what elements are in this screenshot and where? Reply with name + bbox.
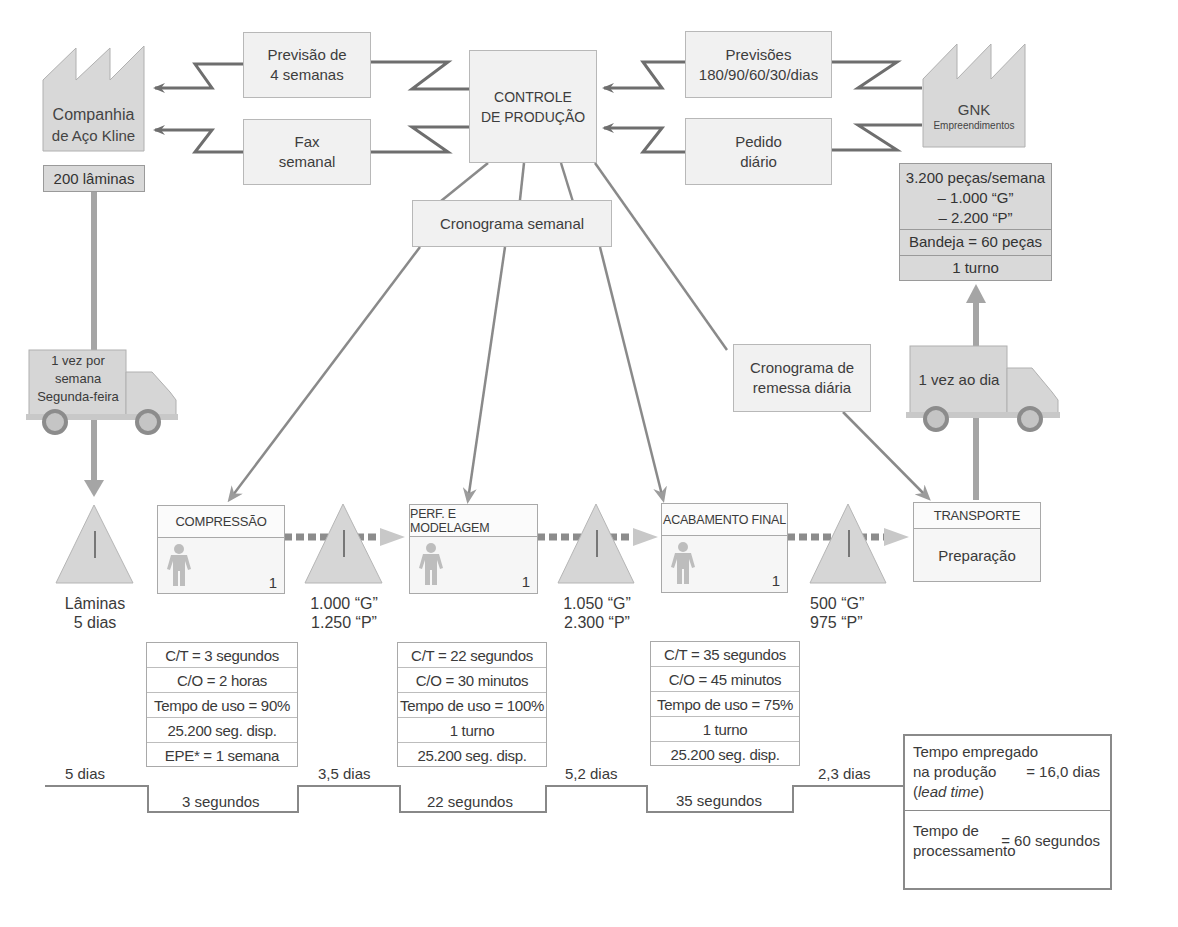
timeline-wait-4: 2,3 dias: [818, 764, 871, 783]
process-shipping-body: Preparação: [938, 547, 1016, 564]
process-drilling-shaping: PERF. E MODELAGEM 1: [409, 504, 538, 594]
data-box-drilling: C/T = 22 segundos C/O = 30 minutos Tempo…: [397, 642, 547, 767]
inventory-3-line1: 500 “G”: [810, 594, 886, 613]
electronic-info-flow-fax: [155, 130, 243, 152]
process-compression: COMPRESSÃO 1: [157, 505, 285, 594]
forecast-customer-line1: Previsões: [726, 45, 792, 65]
timeline-wait-1: 5 dias: [65, 764, 105, 783]
truck-outbound-label: 1 vez ao dia: [911, 370, 1007, 389]
operator-icon: [670, 541, 696, 585]
timeline-process-2: 22 segundos: [427, 792, 513, 811]
inventory-sheets-line2: 5 dias: [54, 613, 136, 632]
forecast-supplier-line2: 4 semanas: [270, 65, 343, 85]
inventory-2-line2: 2.300 “P”: [553, 613, 641, 632]
inventory-1-line2: 1.250 “P”: [300, 613, 388, 632]
daily-shipping-line2: remessa diária: [753, 378, 851, 398]
inbound-shipment-arrow: [84, 191, 104, 497]
data-box-compression: C/T = 3 segundos C/O = 2 horas Tempo de …: [146, 642, 298, 767]
data-row: C/O = 2 horas: [147, 668, 297, 693]
process-drilling-title: PERF. E MODELAGEM: [410, 505, 537, 537]
data-row: 25.200 seg. disp.: [651, 742, 799, 766]
forecast-supplier-line1: Previsão de: [267, 45, 346, 65]
data-box-finishing: C/T = 35 segundos C/O = 45 minutos Tempo…: [650, 641, 800, 766]
lead-time-italic: lead time: [918, 783, 979, 800]
customer-name-main: GNK: [923, 99, 1025, 120]
process-shipping: TRANSPORTE Preparação: [913, 502, 1041, 582]
customer-name: GNK Empreendimentos: [923, 99, 1025, 132]
fax-line2: semanal: [279, 152, 336, 172]
process-finishing-operators: 1: [772, 572, 780, 589]
supplier-name-line2: de Aço Kline: [43, 125, 144, 146]
supplier-name-line1: Companhia: [43, 104, 144, 125]
daily-shipping-line1: Cronograma de: [750, 358, 854, 378]
lead-time-summary: Tempo empregado na produção (lead time) …: [905, 736, 1110, 810]
forecast-customer-box: Previsões 180/90/60/30/dias: [685, 31, 832, 98]
daily-order-line2: diário: [740, 152, 777, 172]
process-shipping-title: TRANSPORTE: [914, 503, 1040, 529]
timeline-process-3: 35 segundos: [676, 791, 762, 810]
timeline-process-1: 3 segundos: [182, 792, 260, 811]
data-row: C/T = 35 segundos: [651, 642, 799, 667]
production-control-box: CONTROLE DE PRODUÇÃO: [469, 50, 597, 163]
lead-time-value: = 16,0 dias: [1026, 762, 1100, 782]
electronic-info-flow-forecast: [155, 64, 243, 88]
operator-icon: [166, 543, 192, 587]
data-row: 25.200 seg. disp.: [398, 743, 546, 767]
inventory-label-sheets: Lâminas 5 dias: [54, 594, 136, 632]
processing-time-summary: Tempo de processamento = 60 segundos: [905, 810, 1110, 867]
inventory-1-line1: 1.000 “G”: [300, 594, 388, 613]
fax-box: Fax semanal: [243, 119, 371, 185]
data-row: C/O = 45 minutos: [651, 667, 799, 692]
data-row: C/T = 22 segundos: [398, 643, 546, 668]
production-control-line1: CONTROLE: [494, 87, 572, 107]
customer-demand-g: – 1.000 “G”: [900, 188, 1051, 208]
truck-outbound-text: 1 vez ao dia: [919, 371, 1000, 388]
fax-line1: Fax: [294, 132, 319, 152]
truck-inbound-line1: 1 vez por: [30, 352, 126, 370]
data-row: C/T = 3 segundos: [147, 643, 297, 668]
timeline-wait-2: 3,5 dias: [318, 764, 371, 783]
data-row: 1 turno: [651, 717, 799, 742]
daily-order-line1: Pedido: [735, 132, 782, 152]
daily-shipping-schedule-box: Cronograma de remessa diária: [733, 344, 871, 412]
operator-icon: [418, 542, 444, 586]
process-finishing-title: ACABAMENTO FINAL: [662, 504, 787, 536]
forecast-supplier-box: Previsão de 4 semanas: [243, 32, 371, 98]
customer-demand-total: 3.200 peças/semana: [900, 168, 1051, 188]
truck-inbound-line3: Segunda-feira: [30, 388, 126, 406]
inventory-3-line2: 975 “P”: [810, 613, 886, 632]
inventory-label-2: 1.050 “G” 2.300 “P”: [553, 594, 641, 632]
process-compression-title: COMPRESSÃO: [158, 506, 284, 538]
daily-order-box: Pedido diário: [685, 118, 832, 185]
truck-inbound-line2: semana: [30, 370, 126, 388]
data-row: C/O = 30 minutos: [398, 668, 546, 693]
data-row: Tempo de uso = 75%: [651, 692, 799, 717]
weekly-schedule-text: Cronograma semanal: [440, 214, 584, 234]
production-control-line2: DE PRODUÇÃO: [481, 107, 585, 127]
inventory-label-3: 500 “G” 975 “P”: [810, 594, 886, 632]
lead-time-label-1: Tempo empregado: [913, 742, 1102, 762]
data-row: EPE* = 1 semana: [147, 743, 297, 767]
summary-box: Tempo empregado na produção (lead time) …: [903, 734, 1112, 890]
supplier-inventory-text: 200 lâminas: [54, 170, 135, 187]
supplier-inventory-label: 200 lâminas: [43, 165, 145, 192]
data-row: 25.200 seg. disp.: [147, 718, 297, 743]
process-drilling-operators: 1: [522, 573, 530, 590]
customer-tray: Bandeja = 60 peças: [900, 230, 1051, 256]
customer-shift: 1 turno: [900, 256, 1051, 281]
data-row: Tempo de uso = 100%: [398, 693, 546, 718]
data-row: Tempo de uso = 90%: [147, 693, 297, 718]
customer-demand-box: 3.200 peças/semana – 1.000 “G” – 2.200 “…: [899, 163, 1052, 281]
customer-subname: Empreendimentos: [923, 120, 1025, 132]
data-row: 1 turno: [398, 718, 546, 743]
lead-time-label-3: (lead time): [913, 782, 1102, 802]
process-compression-operators: 1: [269, 574, 277, 591]
inventory-label-1: 1.000 “G” 1.250 “P”: [300, 594, 388, 632]
customer-demand-p: – 2.200 “P”: [900, 208, 1051, 228]
forecast-customer-line2: 180/90/60/30/dias: [699, 65, 818, 85]
supplier-name: Companhia de Aço Kline: [43, 104, 144, 146]
weekly-schedule-box: Cronograma semanal: [412, 200, 612, 247]
inventory-2-line1: 1.050 “G”: [553, 594, 641, 613]
timeline-wait-3: 5,2 dias: [565, 764, 618, 783]
inventory-sheets-line1: Lâminas: [54, 594, 136, 613]
